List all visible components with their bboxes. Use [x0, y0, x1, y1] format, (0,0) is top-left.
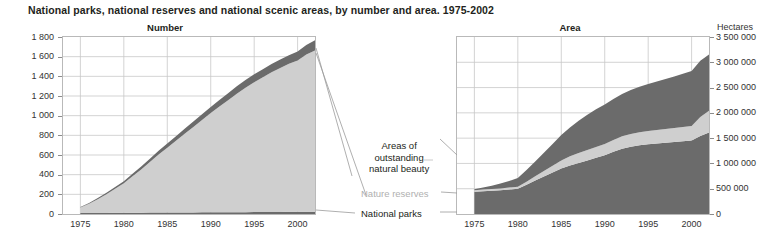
x-tick-label: 1975	[60, 220, 100, 229]
y-tick-mark	[710, 113, 714, 114]
y-tick-label: 400	[0, 170, 54, 179]
plot-area-number	[62, 36, 316, 215]
y-tick-label: 3 500 000	[716, 33, 756, 42]
y-tick-mark	[58, 96, 62, 97]
x-tick-label: 2000	[672, 220, 712, 229]
y-tick-label: 1 800	[0, 33, 54, 42]
y-tick-label: 2 000 000	[716, 108, 756, 117]
y-tick-mark	[58, 214, 62, 215]
y-tick-label: 500 000	[716, 184, 749, 193]
annotation-national-parks: National parks	[361, 208, 422, 220]
x-tick-label: 1995	[628, 220, 668, 229]
y-tick-label: 800	[0, 131, 54, 140]
y-tick-mark	[58, 175, 62, 176]
y-tick-mark	[58, 135, 62, 136]
y-tick-label: 1 600	[0, 52, 54, 61]
annotation-nature-reserves: Nature reserves	[361, 188, 429, 200]
y-tick-label: 1 000 000	[716, 159, 756, 168]
x-tick-label: 1990	[585, 220, 625, 229]
y-tick-label: 0	[0, 210, 54, 219]
y-tick-mark	[58, 37, 62, 38]
area-series	[80, 50, 315, 213]
area-chart-area	[457, 37, 709, 214]
x-tick-label: 2000	[278, 220, 318, 229]
y-tick-mark	[710, 88, 714, 89]
x-tick-label: 1995	[234, 220, 274, 229]
y-tick-label: 1 200	[0, 92, 54, 101]
y-axis-unit-label: Hectares	[717, 22, 753, 32]
y-tick-mark	[710, 37, 714, 38]
x-tick-label: 1975	[454, 220, 494, 229]
y-tick-label: 600	[0, 151, 54, 160]
area-chart-number	[63, 37, 315, 214]
y-tick-mark	[58, 116, 62, 117]
y-tick-label: 2 500 000	[716, 83, 756, 92]
y-tick-mark	[58, 194, 62, 195]
page-title: National parks, national reserves and na…	[28, 4, 494, 16]
x-tick-label: 1990	[191, 220, 231, 229]
y-tick-mark	[710, 163, 714, 164]
x-tick-label: 1985	[541, 220, 581, 229]
y-tick-label: 1 400	[0, 72, 54, 81]
y-tick-mark	[710, 214, 714, 215]
x-tick-label: 1980	[104, 220, 144, 229]
plot-area-area	[456, 36, 710, 215]
x-tick-label: 1980	[498, 220, 538, 229]
y-tick-mark	[710, 62, 714, 63]
x-tick-label: 1985	[147, 220, 187, 229]
y-tick-label: 3 000 000	[716, 58, 756, 67]
y-tick-label: 1 000	[0, 111, 54, 120]
y-tick-mark	[58, 57, 62, 58]
chart-panel-number: Number 02004006008001 0001 2001 4001 600…	[0, 22, 340, 235]
chart-title-area: Area	[432, 22, 708, 33]
y-tick-mark	[58, 155, 62, 156]
chart-panel-area: Area Hectares 0500 0001 000 0001 500 000…	[432, 22, 783, 235]
y-tick-label: 1 500 000	[716, 134, 756, 143]
y-tick-label: 200	[0, 190, 54, 199]
y-tick-mark	[58, 76, 62, 77]
y-tick-label: 0	[716, 210, 721, 219]
y-tick-mark	[710, 189, 714, 190]
y-tick-mark	[710, 138, 714, 139]
annotation-outstanding-natural-beauty: Areas of outstanding natural beauty	[369, 140, 429, 175]
